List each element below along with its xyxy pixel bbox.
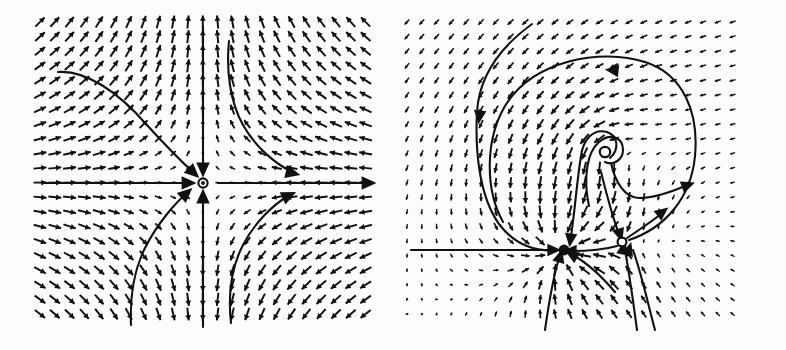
node-inflow-below — [545, 258, 559, 330]
panel-right-multi-equilibrium — [393, 0, 786, 350]
fixed-point-stable-node — [559, 245, 570, 256]
node-inflow-lower-right — [573, 255, 615, 292]
phase-portrait-figure — [0, 0, 786, 350]
fixed-point-saddle — [618, 238, 627, 247]
fixed-points-left — [198, 178, 207, 187]
multi-equilibrium-phase-portrait-svg — [393, 0, 786, 350]
trajectories-right — [411, 24, 696, 330]
vector-field-right — [405, 19, 736, 319]
saddle-unstable-to-node — [571, 246, 617, 251]
trajectories-left — [42, 26, 377, 327]
saddle-phase-portrait-svg — [0, 0, 393, 350]
fixed-point-unstable-spiral — [600, 147, 610, 157]
panel-left-saddle — [0, 0, 393, 350]
outer-loop — [477, 24, 559, 250]
